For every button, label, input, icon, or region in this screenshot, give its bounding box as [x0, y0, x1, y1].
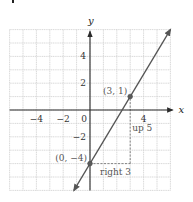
points: (0, −4)(3, 1) [55, 86, 132, 166]
rise-annotation: up 5 [132, 123, 152, 133]
data-point-label: (3, 1) [103, 86, 127, 96]
x-tick-label: −4 [30, 114, 44, 124]
data-point-label: (0, −4) [55, 153, 87, 163]
data-point [128, 94, 133, 99]
run-annotation: right 3 [100, 167, 131, 177]
x-tick-label: −2 [57, 114, 70, 124]
chart: xy −4−20442−2 (0, −4)(3, 1) right 3up 5 [0, 0, 193, 202]
data-point [88, 161, 93, 166]
y-axis-title: y [87, 15, 94, 26]
x-axis-title: x [178, 104, 184, 115]
axes: xy [10, 15, 185, 191]
cropped-glyph-fragment [12, 0, 14, 3]
y-tick-label: −2 [73, 132, 86, 142]
x-tick-label: 0 [81, 114, 87, 124]
y-tick-label: 2 [80, 78, 86, 88]
y-tick-label: 4 [80, 51, 86, 61]
